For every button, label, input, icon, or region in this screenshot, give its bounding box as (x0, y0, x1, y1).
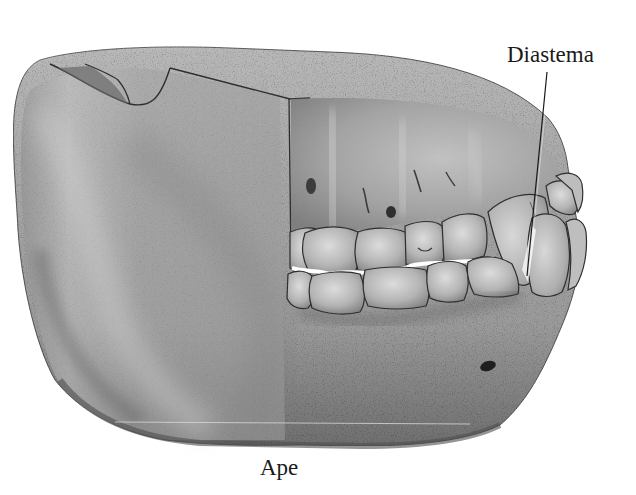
upper-premolar-1 (405, 222, 445, 265)
upper-premolar-2 (442, 214, 487, 262)
diastema-label: Diastema (507, 43, 594, 66)
lower-premolar-1 (427, 262, 468, 303)
upper-molar-3 (355, 228, 408, 271)
jaw-illustration (0, 0, 636, 495)
figure-caption: Ape (260, 456, 298, 479)
ape-jaw-figure: Diastema Ape (0, 0, 636, 495)
lower-molar-3 (363, 267, 429, 309)
lower-premolar-2 (467, 257, 519, 297)
lower-molar-2 (309, 272, 365, 314)
upper-molar-2 (303, 227, 361, 275)
